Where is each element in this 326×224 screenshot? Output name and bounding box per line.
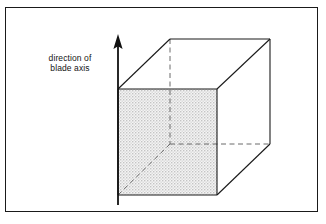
cube-front-face-shaded <box>118 89 217 195</box>
cube-diagram <box>0 0 326 224</box>
edge-bottom-right-diagonal <box>217 144 270 195</box>
figure-root: direction of blade axis <box>0 0 326 224</box>
edge-top-left-diagonal <box>118 39 170 89</box>
figure-caption <box>8 214 320 223</box>
edge-top-right-diagonal <box>217 39 270 89</box>
axis-label-text: direction of blade axis <box>30 53 110 73</box>
